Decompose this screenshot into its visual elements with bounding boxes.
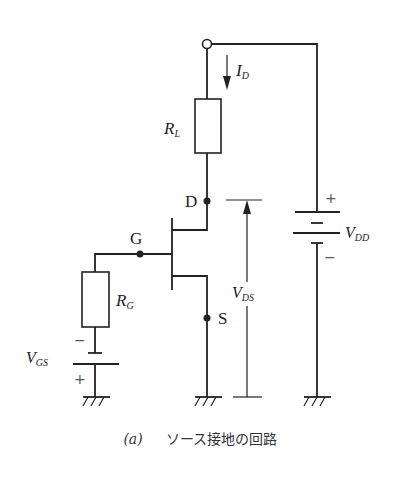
caption-text: ソース接地の回路 (166, 431, 277, 447)
vdd-battery (293, 212, 340, 397)
gate-node (137, 251, 144, 258)
label-vds: VDS (232, 284, 254, 303)
ground-icon (304, 397, 331, 406)
source-node (204, 315, 211, 322)
label-gate: G (130, 229, 142, 248)
ground-icon (83, 397, 110, 406)
jfet-common-source-circuit: ID RL D G RG S − + VGS VDS (0, 0, 400, 484)
vgs-minus-sign: − (74, 332, 86, 348)
figure-caption: (a) ソース接地の回路 (0, 428, 400, 448)
label-rl: RL (163, 119, 180, 139)
drain-current-arrow (223, 55, 231, 90)
label-vdd: VDD (345, 224, 370, 243)
gate-wire (95, 254, 172, 272)
jfet-symbol (172, 218, 207, 397)
gate-resistor (82, 272, 109, 327)
label-rg: RG (115, 291, 134, 311)
label-source: S (218, 309, 227, 328)
label-drain: D (185, 192, 197, 211)
load-resistor (195, 99, 221, 153)
vgs-plus-sign: + (74, 371, 86, 387)
ground-icon (195, 397, 222, 406)
supply-terminal (203, 40, 212, 49)
label-id: ID (235, 61, 250, 81)
drain-node (204, 198, 211, 205)
vdd-plus-sign: + (325, 190, 337, 206)
caption-label: (a) (123, 431, 142, 447)
vdd-minus-sign: − (324, 249, 336, 265)
label-vgs: VGS (26, 349, 48, 368)
